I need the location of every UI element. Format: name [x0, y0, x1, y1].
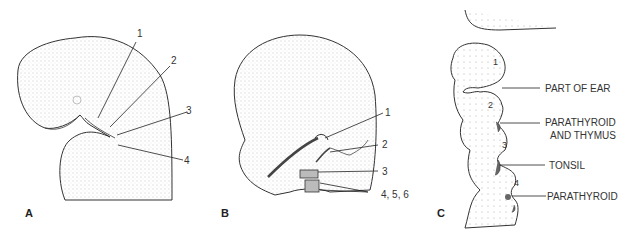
pharyngeal-pouches-figure-c: [451, 10, 556, 228]
pouch-number-2: 2: [488, 100, 493, 111]
panel-letter-b: B: [221, 207, 229, 219]
pouch-number-3: 3: [502, 140, 507, 151]
panel-letter-c: C: [437, 207, 445, 219]
label-a-2: 2: [171, 55, 177, 66]
label-and-thymus: AND THYMUS: [550, 130, 616, 141]
label-a-4: 4: [184, 155, 190, 166]
label-parathyroid-thymus: PARATHYROID: [545, 117, 616, 128]
embryo-figure-a: [18, 37, 187, 200]
label-b-2: 2: [382, 139, 388, 150]
label-b-456: 4, 5, 6: [381, 189, 409, 200]
head-figure-b: [234, 35, 383, 195]
pouch-number-4: 4: [514, 178, 519, 189]
label-a-3: 3: [186, 105, 192, 116]
label-parathyroid: PARATHYROID: [547, 191, 618, 202]
panel-letter-a: A: [25, 207, 33, 219]
pouch-number-1: 1: [493, 57, 498, 68]
label-b-1: 1: [385, 107, 391, 118]
label-tonsil: TONSIL: [549, 160, 585, 171]
label-b-3: 3: [382, 166, 388, 177]
diagram-canvas: [0, 0, 630, 246]
label-a-1: 1: [137, 28, 143, 39]
label-part-of-ear: PART OF EAR: [545, 83, 611, 94]
